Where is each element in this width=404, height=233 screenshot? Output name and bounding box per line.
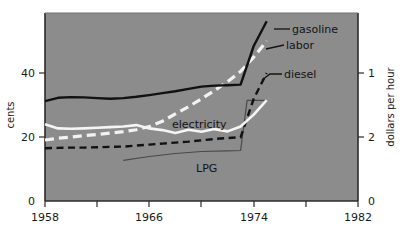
y-tick-20: 20 <box>21 131 35 144</box>
line-chart: 40 20 0 1 2 0 1958 1966 1974 1982 cents … <box>0 0 404 233</box>
y-tick-40: 40 <box>21 67 35 80</box>
y-tick-0: 0 <box>28 195 35 208</box>
x-tick-1982: 1982 <box>344 211 372 224</box>
y2-axis-title: dollars per hour <box>385 66 396 146</box>
y2-tick-2: 2 <box>368 131 375 144</box>
series-label-diesel: diesel <box>284 68 316 81</box>
x-tick-1974: 1974 <box>240 211 268 224</box>
chart-svg: 40 20 0 1 2 0 1958 1966 1974 1982 cents … <box>0 0 404 233</box>
x-tick-1958: 1958 <box>31 211 59 224</box>
series-label-lpg: LPG <box>196 162 217 175</box>
x-tick-1966: 1966 <box>135 211 163 224</box>
series-label-gasoline: gasoline <box>292 23 338 36</box>
series-label-labor: labor <box>286 39 315 52</box>
series-label-electricity: electricity <box>172 118 227 131</box>
y-axis-title: cents <box>5 101 16 128</box>
y2-tick-0: 0 <box>368 195 375 208</box>
y2-tick-1: 1 <box>368 67 375 80</box>
